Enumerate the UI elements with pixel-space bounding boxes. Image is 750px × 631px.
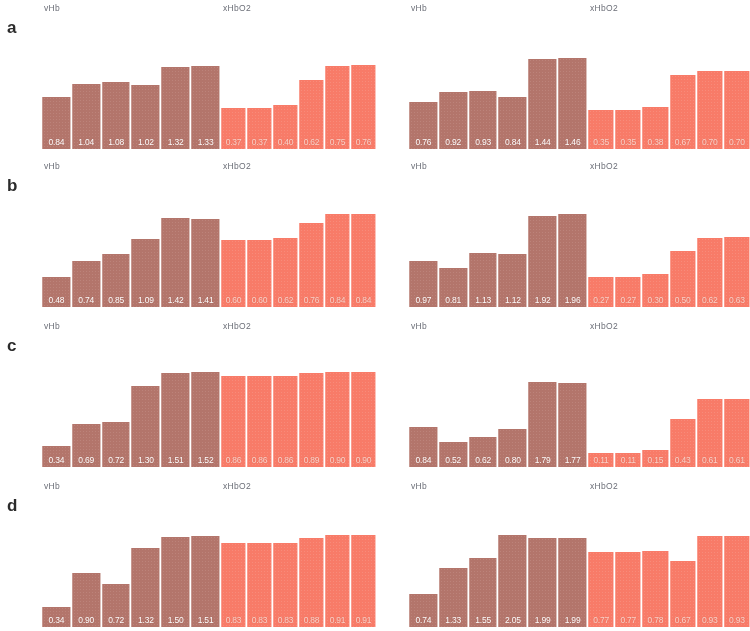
bar-value-label: 0.88 xyxy=(300,615,323,625)
bar: 1.32 xyxy=(131,548,160,627)
chart-title: vHb xyxy=(411,161,427,171)
bar-value-label: 0.62 xyxy=(470,455,497,465)
bar: 0.67 xyxy=(670,561,696,627)
plot-area: 0.760.920.930.841.441.46 xyxy=(409,49,587,149)
bar-value-label: 0.72 xyxy=(103,615,130,625)
bar: 0.62 xyxy=(697,238,723,307)
bar-value-label: 0.78 xyxy=(643,615,667,625)
bar: 0.86 xyxy=(247,376,272,467)
bar-value-label: 0.93 xyxy=(725,615,749,625)
bar-value-label: 1.79 xyxy=(529,455,556,465)
bar: 0.78 xyxy=(642,551,668,627)
bar-value-label: 0.35 xyxy=(616,137,640,147)
plot-area: 0.770.770.780.670.930.93 xyxy=(588,531,750,627)
bar: 1.99 xyxy=(558,538,587,627)
bar: 1.44 xyxy=(528,59,557,149)
bar-value-label: 0.70 xyxy=(725,137,749,147)
bar: 0.63 xyxy=(724,237,750,307)
panel-row-a: avHb0.841.041.081.021.321.33xHbO20.370.3… xyxy=(0,0,750,155)
figure-panel-grid: avHb0.841.041.081.021.321.33xHbO20.370.3… xyxy=(0,0,750,631)
chart-title: vHb xyxy=(44,161,60,171)
chart-title: xHbO2 xyxy=(223,3,251,13)
bar: 0.35 xyxy=(615,110,641,149)
bar-value-label: 0.83 xyxy=(274,615,297,625)
bar-value-label: 0.67 xyxy=(671,137,695,147)
chart-title: xHbO2 xyxy=(590,481,618,491)
bar-value-label: 0.27 xyxy=(616,295,640,305)
bar: 1.09 xyxy=(131,239,160,307)
chart-d-right-vhb: vHb0.741.331.552.051.991.99 xyxy=(409,481,587,631)
plot-area: 0.350.350.380.670.700.70 xyxy=(588,49,750,149)
bar-value-label: 0.90 xyxy=(326,455,349,465)
bar-value-label: 1.08 xyxy=(103,137,130,147)
bar-value-label: 0.77 xyxy=(589,615,613,625)
plot-area: 0.840.520.620.801.791.77 xyxy=(409,367,587,467)
bar: 0.50 xyxy=(670,251,696,307)
chart-title: vHb xyxy=(411,321,427,331)
bar: 1.55 xyxy=(469,558,498,627)
bar: 0.60 xyxy=(221,240,246,307)
bar-value-label: 0.69 xyxy=(73,455,100,465)
bar: 0.72 xyxy=(102,422,131,467)
bar: 0.62 xyxy=(469,437,498,467)
chart-title: vHb xyxy=(44,481,60,491)
bar: 0.91 xyxy=(325,535,350,627)
bar-value-label: 0.75 xyxy=(326,137,349,147)
bar: 0.83 xyxy=(273,543,298,627)
bar: 1.51 xyxy=(191,536,220,627)
bar-value-label: 0.84 xyxy=(410,455,437,465)
bar-value-label: 0.62 xyxy=(698,295,722,305)
bar: 0.89 xyxy=(299,373,324,467)
bar: 0.11 xyxy=(615,453,641,467)
panel-letter-c: c xyxy=(7,336,16,356)
bar-value-label: 0.97 xyxy=(410,295,437,305)
bar-value-label: 1.41 xyxy=(192,295,219,305)
bar-value-label: 0.84 xyxy=(352,295,375,305)
bar-value-label: 0.15 xyxy=(643,455,667,465)
bar: 0.70 xyxy=(697,71,723,149)
bar: 0.37 xyxy=(247,108,272,149)
bar: 1.33 xyxy=(191,66,220,149)
bar: 0.15 xyxy=(642,450,668,467)
plot-area: 0.340.690.721.301.511.52 xyxy=(42,367,220,467)
bar: 0.52 xyxy=(439,442,468,467)
chart-title: xHbO2 xyxy=(223,481,251,491)
bar-value-label: 0.34 xyxy=(43,455,70,465)
bar: 0.76 xyxy=(409,102,438,150)
bar: 0.67 xyxy=(670,75,696,149)
bar: 0.69 xyxy=(72,424,101,467)
bar: 0.74 xyxy=(72,261,101,307)
bar-value-label: 0.74 xyxy=(73,295,100,305)
bar: 0.91 xyxy=(351,535,376,627)
bar-value-label: 1.04 xyxy=(73,137,100,147)
bar-value-label: 0.85 xyxy=(103,295,130,305)
bar: 1.46 xyxy=(558,58,587,149)
bar: 0.86 xyxy=(273,376,298,467)
bar-value-label: 2.05 xyxy=(499,615,526,625)
bar-value-label: 1.02 xyxy=(132,137,159,147)
bar-value-label: 1.52 xyxy=(192,455,219,465)
bar: 1.92 xyxy=(528,216,557,307)
bar-value-label: 0.93 xyxy=(470,137,497,147)
bar-value-label: 1.99 xyxy=(559,615,586,625)
plot-area: 0.830.830.830.880.910.91 xyxy=(221,531,376,627)
bar: 1.13 xyxy=(469,253,498,307)
bar: 0.84 xyxy=(351,214,376,307)
bar: 1.12 xyxy=(498,254,527,307)
chart-title: xHbO2 xyxy=(590,161,618,171)
bar-value-label: 1.32 xyxy=(132,615,159,625)
bar: 0.48 xyxy=(42,277,71,307)
bar-value-label: 0.62 xyxy=(300,137,323,147)
bar-value-label: 0.91 xyxy=(352,615,375,625)
bar: 0.81 xyxy=(439,268,468,307)
bar: 1.32 xyxy=(161,67,190,150)
bar: 0.93 xyxy=(469,91,498,149)
bar: 0.85 xyxy=(102,254,131,307)
bar-value-label: 0.62 xyxy=(274,295,297,305)
plot-area: 0.270.270.300.500.620.63 xyxy=(588,207,750,307)
bar: 1.04 xyxy=(72,84,101,149)
bar-value-label: 0.80 xyxy=(499,455,526,465)
bar: 0.34 xyxy=(42,607,71,627)
bar-value-label: 0.86 xyxy=(274,455,297,465)
panel-letter-d: d xyxy=(7,496,17,516)
